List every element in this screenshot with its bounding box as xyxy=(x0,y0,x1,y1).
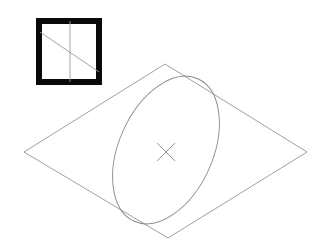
diagram-canvas xyxy=(0,0,329,252)
diagram-root xyxy=(0,0,329,252)
orientation-key-inset xyxy=(39,21,99,82)
